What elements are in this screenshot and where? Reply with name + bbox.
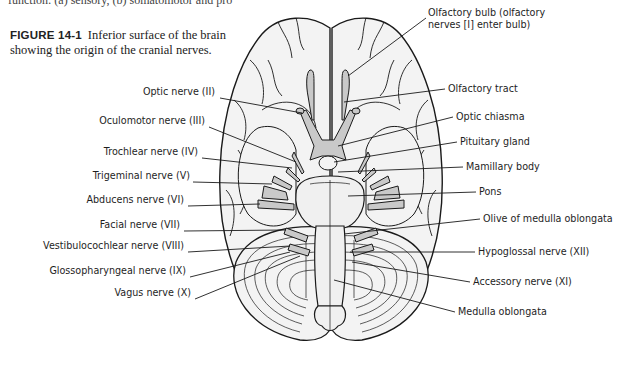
label-oculomotor-nerve: Oculomotor nerve (III)	[99, 115, 205, 127]
label-pituitary-gland: Pituitary gland	[460, 136, 530, 148]
label-optic-chiasma: Optic chiasma	[456, 111, 525, 123]
label-abducens-nerve: Abducens nerve (VI)	[86, 194, 184, 206]
label-olfactory-bulb-line2: nerves [I] enter bulb)	[428, 19, 545, 31]
label-vestibulocochlear-nerve: Vestibulocochlear nerve (VIII)	[43, 240, 184, 252]
label-trochlear-nerve: Trochlear nerve (IV)	[104, 146, 198, 158]
label-vagus-nerve: Vagus nerve (X)	[114, 287, 191, 299]
label-hypoglossal-nerve: Hypoglossal nerve (XII)	[478, 246, 589, 258]
label-mamillary-body: Mamillary body	[466, 161, 540, 173]
label-olfactory-bulb-line1: Olfactory bulb (olfactory	[428, 7, 545, 19]
label-olive-medulla: Olive of medulla oblongata	[483, 213, 613, 225]
label-trigeminal-nerve: Trigeminal nerve (V)	[93, 170, 190, 182]
label-optic-nerve: Optic nerve (II)	[143, 86, 215, 98]
label-olfactory-tract: Olfactory tract	[448, 83, 518, 95]
label-pons: Pons	[479, 186, 501, 198]
label-olfactory-bulb: Olfactory bulb (olfactory nerves [I] ent…	[428, 7, 545, 31]
label-medulla-oblongata: Medulla oblongata	[458, 306, 547, 318]
label-accessory-nerve: Accessory nerve (XI)	[473, 276, 572, 288]
label-facial-nerve: Facial nerve (VII)	[100, 219, 180, 231]
label-glossopharyngeal-nerve: Glossopharyngeal nerve (IX)	[49, 265, 186, 277]
